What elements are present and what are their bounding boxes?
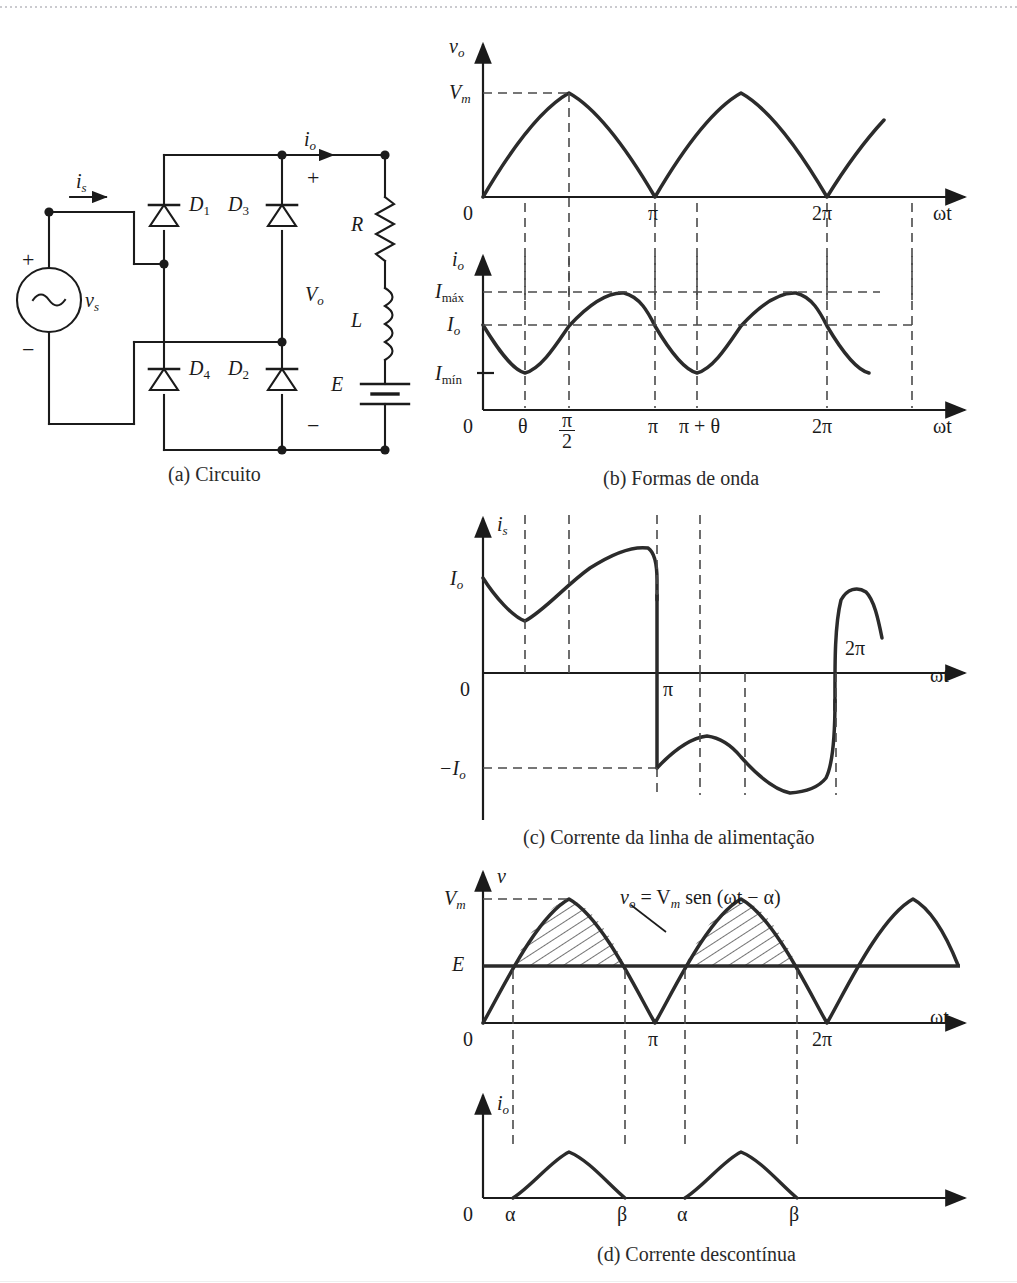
diode-d3-label: D3 xyxy=(228,193,249,219)
c-2pi-label: 2π xyxy=(845,637,865,660)
resistor-symbol xyxy=(376,197,394,261)
d-bot-beta1-label: β xyxy=(617,1203,627,1226)
figure-root: is + − vs io + − D1 D3 D4 D2 Vo R L E (a… xyxy=(0,0,1017,1283)
caption-d: (d) Corrente descontínua xyxy=(597,1243,796,1266)
d-bot-pulse-1 xyxy=(513,1152,625,1198)
sine-glyph xyxy=(33,295,65,306)
b-top-zero-label: 0 xyxy=(463,202,473,225)
output-plus-sign: + xyxy=(307,165,319,191)
panel-b-bottom xyxy=(477,256,965,410)
circuit-diagram xyxy=(17,150,409,454)
d-top-pi-label: π xyxy=(648,1028,658,1051)
d-top-x-axis-label: ωt xyxy=(930,1006,949,1029)
d-bot-beta2-label: β xyxy=(789,1203,799,1226)
c-zero-label: 0 xyxy=(460,678,470,701)
b-top-pi-label: π xyxy=(648,202,658,225)
d-top-equation: vo = Vm sen (ωt − α) xyxy=(620,886,781,912)
b-top-y-axis-label: vo xyxy=(449,35,464,61)
b-bot-pi-label: π xyxy=(648,415,658,438)
d-bot-zero-label: 0 xyxy=(463,1203,473,1226)
d-bot-pulse-2 xyxy=(685,1152,797,1198)
resistor-label: R xyxy=(351,213,363,236)
b-bot-halfpi-label: π2 xyxy=(559,410,575,452)
b-bot-theta-label: θ xyxy=(518,415,528,438)
d-top-y-axis-label: v xyxy=(497,865,506,888)
b-top-vm-label: Vm xyxy=(449,81,471,107)
battery-symbol xyxy=(361,384,409,404)
d-bot-alpha1-label: α xyxy=(505,1203,515,1226)
diode-d1-label: D1 xyxy=(189,193,210,219)
node-top-rail xyxy=(277,150,286,159)
panel-d-bottom xyxy=(483,1095,965,1198)
c-pi-label: π xyxy=(663,678,673,701)
b-bot-y-axis-label: io xyxy=(452,248,464,274)
d-bot-y-axis-label: io xyxy=(497,1092,509,1118)
vo-label-circuit: Vo xyxy=(305,283,324,309)
output-minus-sign: − xyxy=(307,413,319,439)
d-top-zero-label: 0 xyxy=(463,1028,473,1051)
inductor-label: L xyxy=(351,309,362,332)
inductor-symbol xyxy=(385,288,393,360)
diode-d1 xyxy=(149,205,179,226)
b-top-2pi-label: 2π xyxy=(812,202,832,225)
b-bot-zero-label: 0 xyxy=(463,415,473,438)
b-bot-pitheta-label: π + θ xyxy=(679,415,720,438)
c-y-axis-label: is xyxy=(497,513,508,539)
battery-label: E xyxy=(331,373,343,396)
node-bottom-rail xyxy=(277,445,286,454)
source-plus-sign: + xyxy=(22,247,34,273)
c-minus-io-label: −Io xyxy=(439,757,466,783)
b-bot-2pi-label: 2π xyxy=(812,415,832,438)
panel-c xyxy=(483,515,965,820)
b-top-vo-curve xyxy=(483,93,884,197)
d-top-2pi-label: 2π xyxy=(812,1028,832,1051)
b-bot-io-label: Io xyxy=(447,313,460,339)
b-bot-io-curve xyxy=(483,293,869,373)
diode-d4-label: D4 xyxy=(189,357,210,383)
panel-d-top xyxy=(483,872,965,1150)
d-top-vm-label: Vm xyxy=(444,887,466,913)
b-bot-imin-label: Imín xyxy=(435,362,462,388)
c-curve-negative xyxy=(657,700,835,793)
panel-b-top xyxy=(483,44,965,300)
c-x-axis-label: ωt xyxy=(930,664,949,687)
caption-b: (b) Formas de onda xyxy=(603,467,759,490)
caption-a: (a) Circuito xyxy=(168,463,261,486)
b-top-x-axis-label: ωt xyxy=(933,202,952,225)
d-bot-alpha2-label: α xyxy=(677,1203,687,1226)
vs-label: vs xyxy=(85,289,99,315)
c-curve-positive xyxy=(483,548,657,621)
io-label-circuit: io xyxy=(304,128,316,154)
b-bot-imax-label: Imáx xyxy=(435,280,464,306)
diode-d4 xyxy=(149,369,179,390)
is-label: is xyxy=(76,170,87,196)
diode-d2 xyxy=(267,369,297,390)
diode-d2-label: D2 xyxy=(228,357,249,383)
b-bot-x-axis-label: ωt xyxy=(933,415,952,438)
d-hatch-1 xyxy=(513,899,625,966)
d-top-E-label: E xyxy=(452,953,464,976)
caption-c: (c) Corrente da linha de alimentação xyxy=(523,826,815,849)
source-minus-sign: − xyxy=(22,337,34,363)
c-io-label: Io xyxy=(450,567,463,593)
diode-d3 xyxy=(267,205,297,226)
